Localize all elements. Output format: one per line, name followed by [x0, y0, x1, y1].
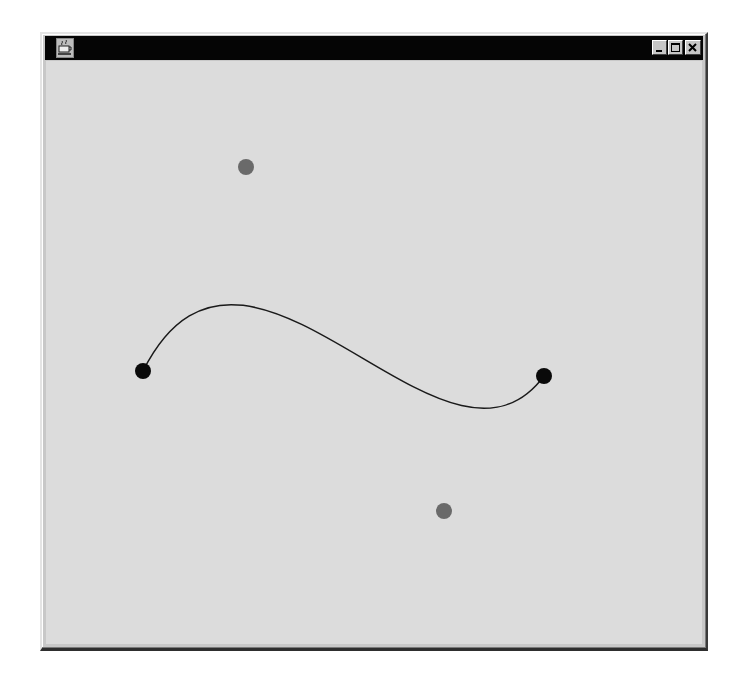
maximize-icon — [669, 41, 682, 54]
close-icon — [686, 41, 700, 54]
app-window — [40, 32, 708, 651]
maximize-button[interactable] — [668, 40, 683, 55]
drawing-canvas[interactable] — [46, 61, 702, 644]
start-point[interactable] — [135, 363, 151, 379]
bezier-drawing[interactable] — [46, 61, 706, 646]
java-coffee-cup-icon[interactable] — [56, 38, 74, 58]
bezier-curve — [143, 305, 544, 409]
control-point-2[interactable] — [436, 503, 452, 519]
minimize-icon — [653, 41, 666, 54]
minimize-button[interactable] — [652, 40, 667, 55]
close-button[interactable] — [685, 40, 701, 55]
title-bar[interactable] — [45, 36, 703, 60]
end-point[interactable] — [536, 368, 552, 384]
control-point-1[interactable] — [238, 159, 254, 175]
